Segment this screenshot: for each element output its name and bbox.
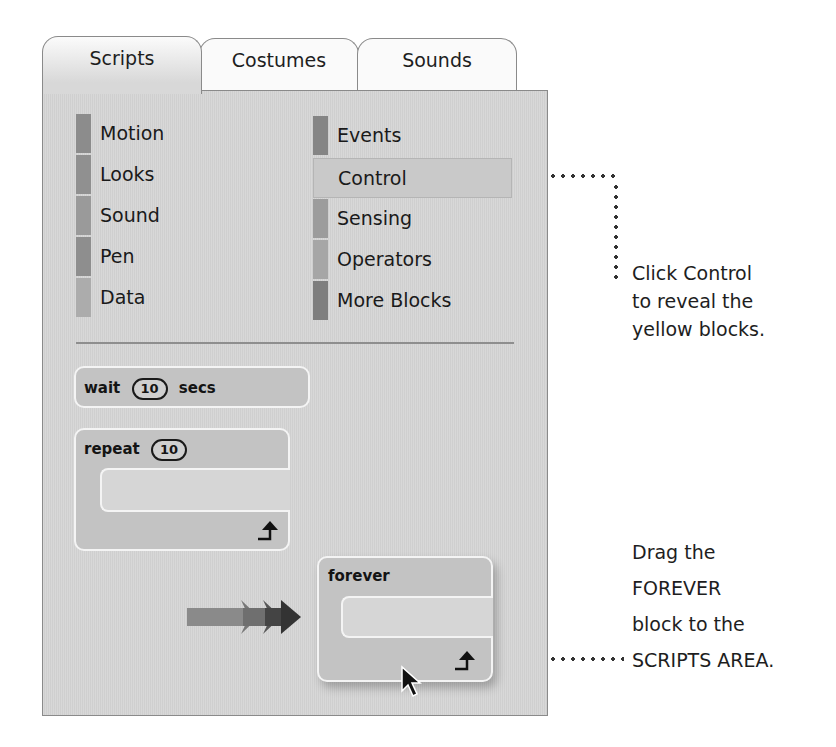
repeat-block[interactable]: repeat 10 (74, 428, 290, 551)
color-swatch (76, 155, 91, 194)
block-keyword: secs (179, 379, 216, 397)
block-keyword: wait (84, 379, 120, 397)
category-operators[interactable]: Operators (313, 239, 432, 279)
color-swatch (313, 116, 328, 155)
tab-costumes[interactable]: Costumes (199, 38, 359, 91)
block-keyword: forever (328, 567, 390, 585)
category-motion[interactable]: Motion (76, 113, 164, 153)
category-data[interactable]: Data (76, 277, 145, 317)
loop-arrow-icon (256, 520, 282, 542)
annotation-line: SCRIPTS AREA. (632, 642, 774, 678)
annotation-line: block to the (632, 606, 774, 642)
category-control[interactable]: Control (313, 158, 512, 198)
drag-arrow-icon (187, 600, 303, 634)
category-label: Motion (100, 122, 164, 144)
annotation-line: Drag the (632, 534, 774, 570)
color-swatch (76, 278, 91, 317)
annotation-line: Click Control (632, 259, 765, 287)
category-label: Events (337, 124, 401, 146)
category-label: Pen (100, 245, 135, 267)
category-events[interactable]: Events (313, 115, 401, 155)
dotted-leader-line (538, 174, 620, 178)
tab-sounds[interactable]: Sounds (357, 38, 517, 91)
category-label: Operators (337, 248, 432, 270)
tab-label: Costumes (232, 49, 326, 71)
color-swatch (76, 237, 91, 276)
repeat-count-input[interactable]: 10 (151, 439, 187, 461)
category-more-blocks[interactable]: More Blocks (313, 280, 451, 320)
color-swatch (313, 240, 328, 279)
color-swatch (313, 281, 328, 320)
category-pen[interactable]: Pen (76, 236, 135, 276)
annotation-line: yellow blocks. (632, 315, 765, 343)
mouse-cursor-icon (400, 665, 424, 699)
palette-divider (76, 342, 514, 344)
category-looks[interactable]: Looks (76, 154, 154, 194)
tab-label: Scripts (89, 47, 154, 69)
block-keyword: repeat (84, 440, 140, 458)
loop-arrow-icon (453, 650, 479, 672)
annotation-line: to reveal the (632, 287, 765, 315)
color-swatch (76, 114, 91, 153)
control-annotation: Click Control to reveal the yellow block… (632, 259, 765, 343)
category-label: Sound (100, 204, 160, 226)
annotation-line: FOREVER (632, 570, 774, 606)
forever-mouth (341, 596, 493, 638)
wait-block[interactable]: wait 10 secs (74, 366, 310, 408)
color-swatch (313, 199, 328, 238)
repeat-mouth (100, 468, 290, 512)
category-label: More Blocks (337, 289, 451, 311)
tab-join (44, 86, 200, 94)
dotted-leader-line (614, 182, 618, 282)
forever-annotation: Drag the FOREVER block to the SCRIPTS AR… (632, 534, 774, 678)
seconds-input[interactable]: 10 (132, 378, 168, 400)
tab-label: Sounds (402, 49, 472, 71)
color-swatch (76, 196, 91, 235)
forever-block[interactable]: forever (317, 556, 493, 682)
category-sound[interactable]: Sound (76, 195, 160, 235)
category-sensing[interactable]: Sensing (313, 198, 412, 238)
category-label: Control (338, 167, 407, 189)
category-label: Sensing (337, 207, 412, 229)
category-label: Looks (100, 163, 154, 185)
category-label: Data (100, 286, 145, 308)
